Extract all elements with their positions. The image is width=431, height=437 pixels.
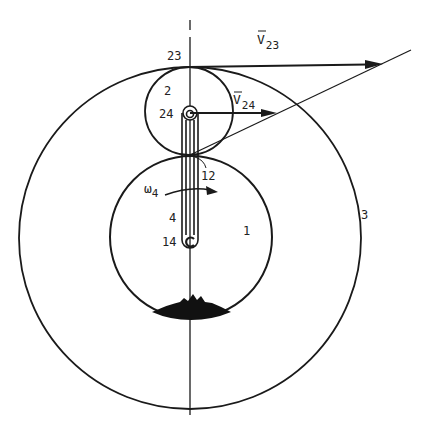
label-1: 1 <box>243 224 250 238</box>
omega4-arrow <box>165 186 218 195</box>
label-2: 2 <box>164 84 171 98</box>
leader-12 <box>195 157 206 168</box>
gear-train-diagram: 23 2 24 12 4 14 1 3 ω4 V23 V24 <box>0 0 431 437</box>
label-omega: ω4 <box>144 181 159 200</box>
svg-text:V23: V23 <box>257 32 279 52</box>
label-v24: V24 <box>233 92 255 112</box>
label-v23: V23 <box>257 31 279 52</box>
v23-vector <box>190 60 383 69</box>
svg-text:V24: V24 <box>233 92 255 112</box>
label-3: 3 <box>361 208 368 222</box>
label-24: 24 <box>159 107 173 121</box>
label-4: 4 <box>169 211 176 225</box>
ground-symbol <box>152 294 231 320</box>
label-14: 14 <box>162 235 176 249</box>
label-23: 23 <box>167 49 181 63</box>
label-12: 12 <box>201 169 215 183</box>
